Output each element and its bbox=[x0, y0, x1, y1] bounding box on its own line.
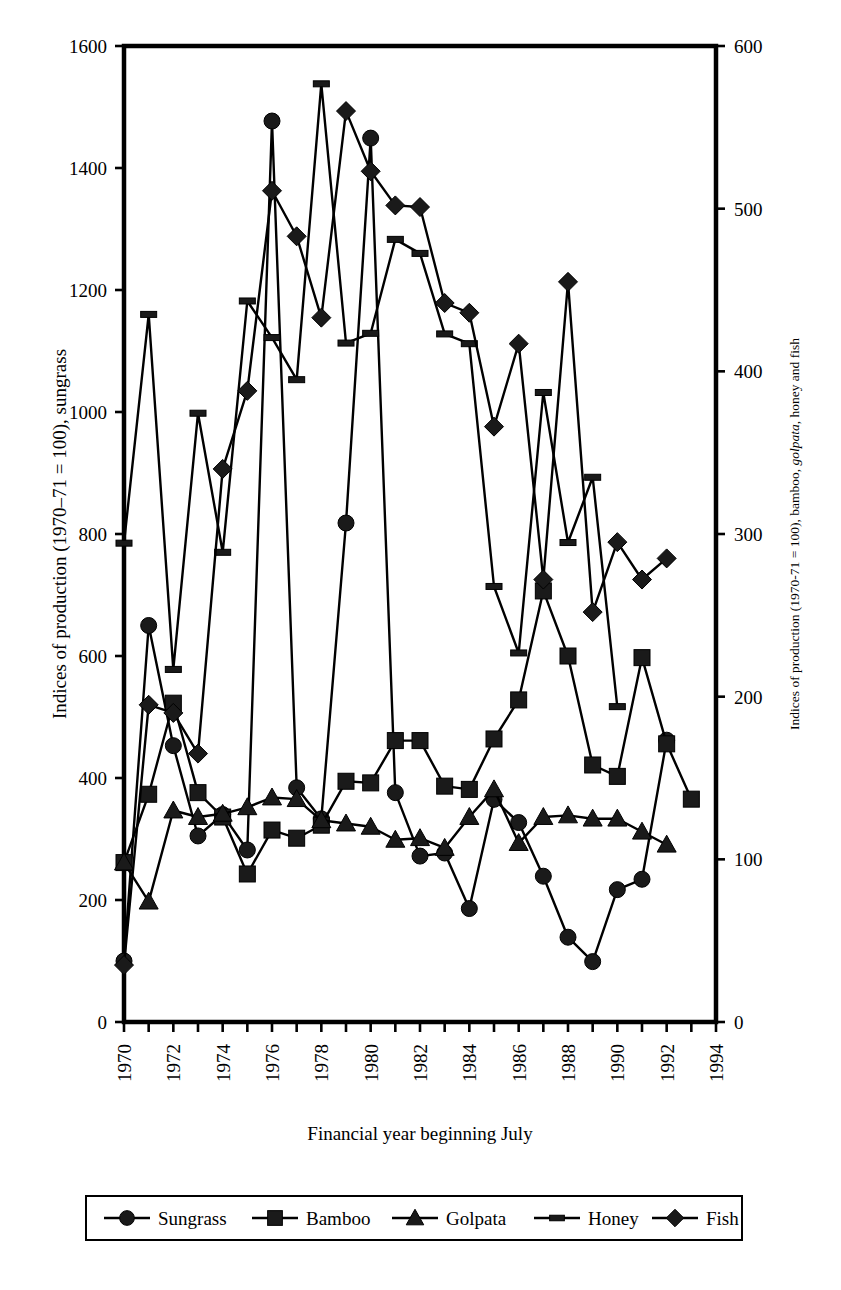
x-tick-label: 1978 bbox=[311, 1044, 332, 1082]
x-tick-label: 1972 bbox=[163, 1044, 184, 1082]
y-tick-label-left: 1600 bbox=[69, 36, 107, 57]
x-tick-label: 1984 bbox=[459, 1044, 480, 1083]
y-tick-label-left: 400 bbox=[79, 768, 108, 789]
y-tick-label-left: 0 bbox=[98, 1012, 108, 1033]
x-tick-label: 1982 bbox=[410, 1044, 431, 1082]
legend-label: Sungrass bbox=[158, 1208, 227, 1229]
y-axis-right: 0100200300400500600 bbox=[716, 36, 763, 1033]
y-tick-label-right: 500 bbox=[734, 199, 763, 220]
chart-figure: 0200400600800100012001400160001002003004… bbox=[0, 0, 841, 1290]
x-axis: 1970197219741976197819801982198419861988… bbox=[114, 1022, 727, 1082]
legend-item-bamboo[interactable]: Bamboo bbox=[252, 1208, 370, 1229]
y-tick-label-left: 1000 bbox=[69, 402, 107, 423]
y-tick-label-left: 1400 bbox=[69, 158, 107, 179]
y-tick-label-right: 100 bbox=[734, 849, 763, 870]
y-tick-label-left: 1200 bbox=[69, 280, 107, 301]
y-axis-title-right: Indices of production (1970-71 = 100), b… bbox=[787, 338, 802, 730]
y-axis-left: 02004006008001000120014001600 bbox=[69, 36, 124, 1033]
x-tick-label: 1990 bbox=[607, 1044, 628, 1082]
plot-frame bbox=[124, 46, 716, 1022]
x-axis-title: Financial year beginning July bbox=[307, 1123, 533, 1144]
x-tick-label: 1970 bbox=[114, 1044, 135, 1082]
y-tick-label-left: 800 bbox=[79, 524, 108, 545]
y-tick-label-right: 400 bbox=[734, 361, 763, 382]
legend-label: Bamboo bbox=[306, 1208, 370, 1229]
legend-label: Honey bbox=[588, 1208, 639, 1229]
y-tick-label-left: 600 bbox=[79, 646, 108, 667]
x-tick-label: 1986 bbox=[509, 1044, 530, 1082]
x-tick-label: 1994 bbox=[706, 1044, 727, 1083]
y-tick-label-right: 0 bbox=[734, 1012, 744, 1033]
series-layer bbox=[115, 81, 700, 975]
x-tick-label: 1992 bbox=[657, 1044, 678, 1082]
x-tick-label: 1988 bbox=[558, 1044, 579, 1082]
line-chart: 0200400600800100012001400160001002003004… bbox=[0, 0, 841, 1290]
y-tick-label-right: 200 bbox=[734, 687, 763, 708]
x-tick-label: 1976 bbox=[262, 1044, 283, 1082]
x-tick-label: 1980 bbox=[361, 1044, 382, 1082]
y-tick-label-right: 600 bbox=[734, 36, 763, 57]
y-tick-label-left: 200 bbox=[79, 890, 108, 911]
chart-legend: SungrassBambooGolpataHoneyFish bbox=[86, 1196, 742, 1240]
x-tick-label: 1974 bbox=[213, 1044, 234, 1083]
legend-label: Fish bbox=[706, 1208, 739, 1229]
legend-label: Golpata bbox=[446, 1208, 507, 1229]
y-tick-label-right: 300 bbox=[734, 524, 763, 545]
y-axis-title-left: Indices of production (1970–71 = 100), s… bbox=[49, 349, 71, 719]
